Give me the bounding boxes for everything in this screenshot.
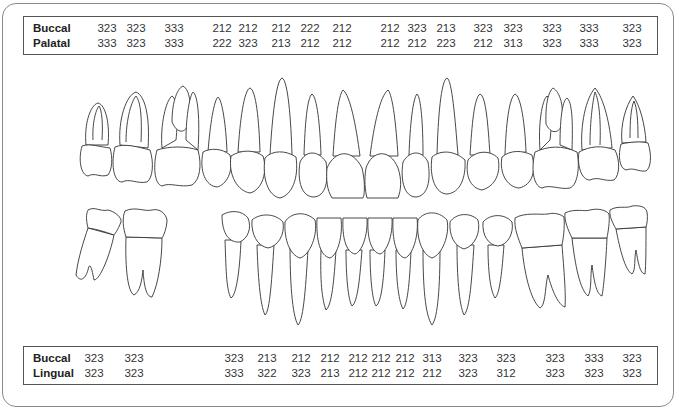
upper-tooth xyxy=(327,90,365,198)
upper-tooth xyxy=(365,90,401,198)
upper-tooth xyxy=(467,94,499,190)
upper-tooth xyxy=(619,96,650,171)
lower-tooth xyxy=(317,218,342,310)
lower-tooth xyxy=(123,209,167,297)
upper-tooth xyxy=(299,94,327,197)
lower-tooth xyxy=(368,218,392,306)
lower-tooth xyxy=(610,206,648,274)
upper-tooth xyxy=(501,94,533,188)
upper-tooth xyxy=(431,78,465,194)
lower-tooth xyxy=(565,209,609,296)
upper-tooth xyxy=(264,78,296,198)
upper-tooth xyxy=(202,97,231,187)
dental-arch-diagram xyxy=(0,0,679,413)
upper-tooth xyxy=(533,88,578,188)
lower-tooth xyxy=(450,215,479,315)
lower-tooth xyxy=(252,215,283,315)
upper-arch xyxy=(80,78,650,198)
lower-tooth xyxy=(222,212,250,298)
upper-tooth xyxy=(155,86,200,186)
lower-tooth xyxy=(418,213,448,325)
lower-tooth xyxy=(483,216,512,298)
lower-tooth xyxy=(515,213,565,308)
upper-tooth xyxy=(230,88,264,193)
lower-tooth xyxy=(393,218,418,309)
upper-tooth xyxy=(80,103,112,176)
lower-tooth xyxy=(285,214,316,325)
lower-arch xyxy=(76,206,647,325)
upper-tooth xyxy=(402,94,429,197)
upper-tooth xyxy=(113,92,152,182)
upper-tooth xyxy=(578,88,618,180)
lower-tooth xyxy=(76,209,121,280)
lower-tooth xyxy=(343,218,367,306)
